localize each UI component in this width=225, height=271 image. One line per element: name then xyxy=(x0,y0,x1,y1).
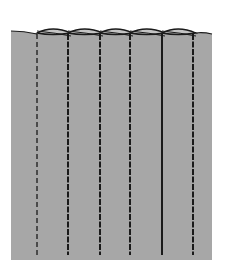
fabric-illustration xyxy=(0,0,225,271)
fabric-panel xyxy=(11,30,212,260)
pleated-fabric-diagram xyxy=(0,0,225,271)
